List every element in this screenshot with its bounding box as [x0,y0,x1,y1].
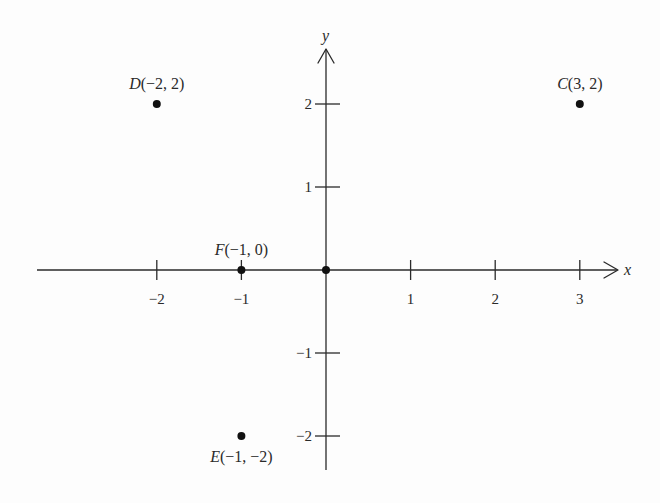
y-axis-label: y [320,27,330,45]
x-tick-label: −1 [233,291,249,307]
y-tick-label: −1 [296,345,312,361]
x-axis-ticks: −2−1123 [149,260,584,307]
y-tick-label: −2 [296,428,312,444]
x-tick-label: 3 [576,291,584,307]
point-coords: (3, 2) [568,75,603,93]
point-d [153,100,161,108]
point-name: D [128,75,141,92]
coordinate-plane: x y −2−1123 21−1−2 C(3, 2)D(−2, 2)E(−1, … [0,0,660,503]
point-coords: (−1, −2) [220,448,273,466]
point-c-label: C(3, 2) [557,75,602,93]
axes: x y [37,27,631,470]
point-e [237,432,245,440]
point-name: F [214,241,225,258]
x-axis-label: x [623,261,631,278]
y-tick-label: 1 [305,179,313,195]
point-f [237,266,245,274]
x-tick-label: −2 [149,291,165,307]
point-f-label: F(−1, 0) [214,241,268,259]
point-d-label: D(−2, 2) [128,75,184,93]
y-tick-label: 2 [305,96,313,112]
point-name: E [209,448,220,465]
point-name: C [557,75,568,92]
x-tick-label: 1 [407,291,415,307]
point-e-label: E(−1, −2) [209,448,272,466]
origin-point [322,266,330,274]
point-coords: (−1, 0) [224,241,268,259]
point-c [576,100,584,108]
x-tick-label: 2 [491,291,499,307]
point-coords: (−2, 2) [141,75,185,93]
